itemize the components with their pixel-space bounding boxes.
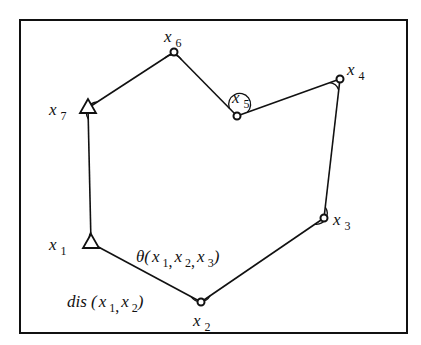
- angle-arc-x4: [330, 83, 339, 90]
- vertex-labels: x1x2x3x4x5x6x7: [48, 27, 365, 334]
- triangle-marker-x1: [83, 234, 99, 248]
- circle-marker-x4: [337, 76, 344, 83]
- edge-x5-x6: [174, 52, 237, 116]
- vertex-label-x7: x7: [48, 100, 67, 123]
- distance-annotation: dis (x1,x2): [67, 292, 144, 315]
- vertex-label-x6: x6: [163, 27, 182, 50]
- circle-marker-x3: [321, 215, 328, 222]
- vertex-label-x2: x2: [192, 311, 211, 334]
- theta-annotation: θ(x1,x2,x3): [136, 247, 220, 270]
- triangle-marker-x7: [80, 99, 96, 113]
- vertex-label-x5: x5: [231, 88, 250, 111]
- edge-x6-x7: [88, 52, 174, 108]
- vertex-label-x3: x3: [332, 210, 351, 233]
- polygon-diagram: x1x2x3x4x5x6x7 θ(x1,x2,x3)dis (x1,x2): [0, 0, 421, 345]
- annotations: θ(x1,x2,x3)dis (x1,x2): [67, 247, 220, 315]
- edge-x7-x1: [88, 108, 91, 243]
- edge-x2-x3: [201, 218, 324, 302]
- circle-marker-x2: [198, 299, 205, 306]
- circle-marker-x5: [234, 113, 241, 120]
- edge-x4-x5: [237, 79, 340, 116]
- edge-x3-x4: [324, 79, 340, 218]
- vertex-label-x4: x4: [346, 60, 365, 83]
- vertex-label-x1: x1: [48, 235, 67, 258]
